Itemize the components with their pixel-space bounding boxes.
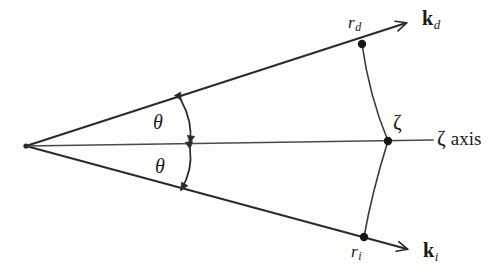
vector-label-ki-base: k <box>423 239 434 261</box>
vector-label-ki: ki <box>423 240 438 263</box>
connector-zeta-ri <box>364 141 388 237</box>
apex-vertex-point <box>23 143 28 148</box>
point-label-rd: rd <box>348 14 361 33</box>
figure-container: θ θ ζ ζ axis rd ri kd ki <box>0 0 502 279</box>
axis-label-zeta-glyph: ζ <box>437 126 446 150</box>
angle-label-theta-lower: θ <box>155 156 165 176</box>
point-zeta <box>384 137 392 145</box>
vector-label-kd: kd <box>422 8 440 31</box>
zeta-axis-line <box>26 140 433 146</box>
ray-lower-ki <box>26 146 407 249</box>
point-label-ri-subscript: i <box>358 249 361 263</box>
point-label-rd-subscript: d <box>355 20 361 34</box>
point-label-ri: ri <box>351 243 361 262</box>
connector-rd-zeta <box>362 44 388 141</box>
point-rd <box>358 40 366 48</box>
point-label-zeta: ζ <box>393 112 402 133</box>
axis-label-zeta-axis: ζ axis <box>437 128 481 149</box>
ray-upper-kd <box>26 23 406 146</box>
vector-label-ki-subscript: i <box>435 249 439 264</box>
point-label-ri-base: r <box>351 242 358 261</box>
point-label-rd-base: r <box>348 13 355 32</box>
angle-arc-lower <box>181 149 191 190</box>
angle-label-theta-upper: θ <box>153 112 163 132</box>
axis-label-axis-word: axis <box>451 128 482 149</box>
vector-label-kd-subscript: d <box>434 17 441 32</box>
scattering-geometry-diagram <box>0 0 502 279</box>
vector-label-kd-base: k <box>422 7 433 29</box>
point-ri <box>360 233 368 241</box>
angle-arc-upper <box>181 100 191 143</box>
